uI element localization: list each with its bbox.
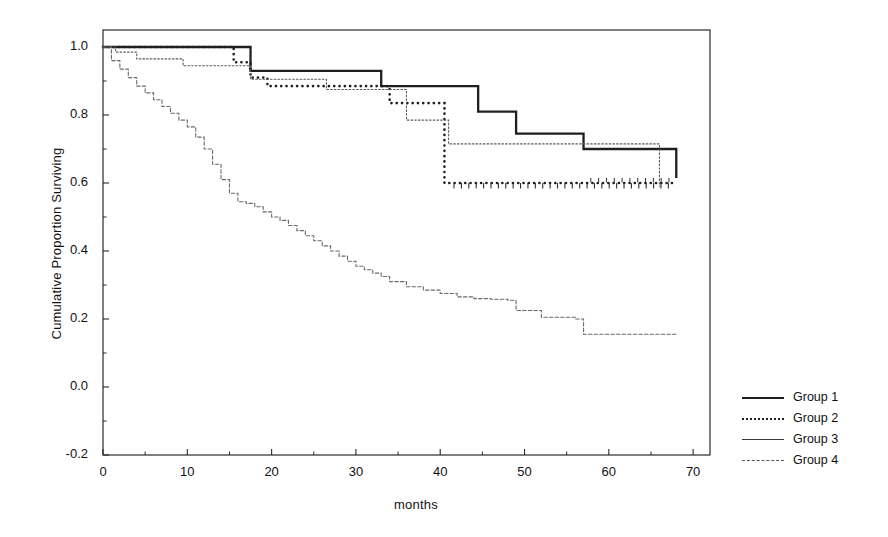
legend-item-label: Group 2 <box>793 411 838 425</box>
plot-frame <box>103 30 710 455</box>
legend-line-swatch-icon <box>742 455 784 465</box>
legend-item-label: Group 3 <box>793 432 838 446</box>
legend-item-label: Group 1 <box>793 390 838 404</box>
legend-line-swatch-icon <box>742 413 784 423</box>
legend-item-1[interactable]: Group 1 <box>742 386 888 407</box>
legend-line-swatch-icon <box>742 392 784 402</box>
legend-line-swatch-icon <box>742 434 784 444</box>
legend-item-2[interactable]: Group 2 <box>742 407 888 428</box>
survival-chart-figure: Cumulative Proportion Surviving months -… <box>0 0 888 537</box>
legend-item-4[interactable]: Group 4 <box>742 449 888 470</box>
legend-item-label: Group 4 <box>793 453 838 467</box>
series-line-1 <box>103 47 676 178</box>
series-line-2 <box>103 47 676 183</box>
legend: Group 1Group 2Group 3Group 4 <box>742 386 888 470</box>
legend-item-3[interactable]: Group 3 <box>742 428 888 449</box>
series-line-3 <box>103 47 659 186</box>
